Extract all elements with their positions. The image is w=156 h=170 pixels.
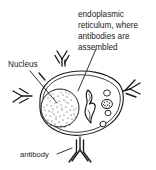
dark-organelle (102, 99, 113, 108)
er-label-line-3: antibodies are (78, 32, 130, 41)
antibody-top (55, 51, 69, 66)
antibody-upper-left (39, 73, 45, 80)
antibody-cell-diagram: Nucleus antibody endoplasmic reticulum, … (0, 0, 156, 170)
antibody-leader-line (57, 148, 72, 154)
antibody-left (13, 89, 32, 104)
er-label-line-1: endoplasmic (78, 10, 124, 19)
antibody-label: antibody (20, 150, 49, 159)
antibody-bottom (69, 137, 91, 162)
er-label-line-2: reticulum, where (78, 21, 139, 30)
nucleus-label: Nucleus (8, 60, 38, 69)
er-label-line-4: assembled (78, 43, 118, 52)
er-label: endoplasmic reticulum, where antibodies … (78, 10, 139, 52)
